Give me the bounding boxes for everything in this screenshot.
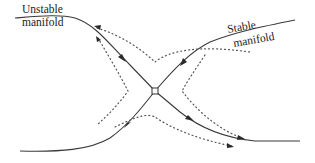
unstable-label-line2: manifold	[22, 16, 64, 28]
saddle-point	[152, 88, 158, 94]
stable-label-line1: Stable	[226, 18, 256, 35]
unstable-label-line1: Unstable	[22, 3, 63, 15]
arrow-icon-traj-bottom	[227, 143, 234, 148]
trajectory-left	[97, 38, 128, 125]
trajectory-bottom	[115, 115, 232, 146]
arrow-icon-unstable-upper	[118, 54, 126, 62]
saddle-point-diagram: Unstable manifold Stable manifold	[0, 0, 315, 163]
trajectory-right	[182, 55, 242, 138]
arrow-icon-unstable-lower	[185, 115, 194, 121]
